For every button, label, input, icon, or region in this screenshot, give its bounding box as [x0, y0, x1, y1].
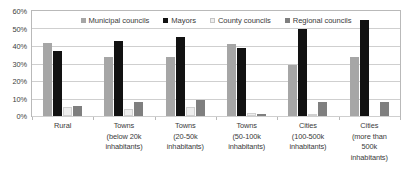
x-axis-label-line: inhabitants) — [94, 142, 153, 153]
bar[interactable] — [237, 48, 246, 116]
bar[interactable] — [114, 41, 123, 116]
x-axis-label-line: Towns — [156, 121, 215, 132]
bar[interactable] — [134, 102, 143, 116]
y-axis-tick-label: 60% — [13, 7, 28, 16]
x-axis-label-line: inhabitants) — [156, 142, 215, 153]
x-axis: RuralTowns(below 20kinhabitants)Towns(20… — [32, 121, 400, 163]
x-axis-label-line: inhabitants) — [278, 142, 337, 153]
x-axis-tick-label: Cities(more than500kinhabitants) — [339, 121, 400, 163]
legend-item[interactable]: Regional councils — [285, 16, 352, 25]
x-axis-label-line: Towns — [217, 121, 276, 132]
bar[interactable] — [318, 102, 327, 116]
legend-item[interactable]: Municipal councils — [81, 16, 150, 25]
x-axis-label-line: Cities — [278, 121, 337, 132]
legend-item[interactable]: County councils — [210, 16, 271, 25]
y-axis: 60%50%40%30%20%10%0% — [0, 10, 31, 117]
bar[interactable] — [227, 44, 236, 116]
x-axis-label-line: inhabitants) — [340, 153, 399, 164]
bar[interactable] — [186, 107, 195, 116]
x-axis-tick — [216, 117, 217, 120]
bar-chart: 60%50%40%30%20%10%0% Municipal councilsM… — [0, 0, 406, 171]
legend-label: Mayors — [171, 16, 196, 25]
bar[interactable] — [104, 57, 113, 117]
bar[interactable] — [350, 57, 359, 117]
y-axis-tick-label: 20% — [13, 77, 28, 86]
x-axis-tick — [339, 117, 340, 120]
x-axis-label-line: Towns — [94, 121, 153, 132]
x-axis-label-line: 500k — [340, 142, 399, 153]
bar[interactable] — [63, 107, 72, 116]
legend-swatch-icon — [210, 18, 215, 23]
bar[interactable] — [308, 114, 317, 116]
bar[interactable] — [43, 43, 52, 117]
x-axis-label-line: inhabitants) — [217, 142, 276, 153]
legend-swatch-icon — [81, 18, 86, 23]
x-axis-tick — [277, 117, 278, 120]
bar[interactable] — [166, 57, 175, 117]
bar[interactable] — [257, 114, 266, 116]
y-axis-tick-label: 30% — [13, 59, 28, 68]
bar[interactable] — [176, 37, 185, 116]
legend-swatch-icon — [163, 18, 168, 23]
bar[interactable] — [247, 113, 256, 117]
legend-item[interactable]: Mayors — [163, 16, 196, 25]
bar[interactable] — [360, 20, 369, 116]
legend-label: Regional councils — [293, 16, 352, 25]
x-axis-tick — [32, 117, 33, 120]
x-axis-label-line: Rural — [33, 121, 92, 132]
y-axis-tick-label: 40% — [13, 42, 28, 51]
x-axis-tick-label: Towns(20-50kinhabitants) — [155, 121, 216, 163]
x-axis-label-line: (20-50k — [156, 132, 215, 143]
bar[interactable] — [124, 109, 133, 116]
x-axis-tick — [155, 117, 156, 120]
y-axis-tick-label: 10% — [13, 94, 28, 103]
legend-swatch-icon — [285, 18, 290, 23]
x-axis-tick-label: Rural — [32, 121, 93, 163]
bar[interactable] — [298, 29, 307, 117]
bar[interactable] — [73, 106, 82, 117]
x-axis-label-line: (100-500k — [278, 132, 337, 143]
chart-legend: Municipal councilsMayorsCounty councilsR… — [31, 12, 401, 28]
legend-label: Municipal councils — [89, 16, 150, 25]
y-axis-tick-label: 50% — [13, 24, 28, 33]
x-axis-tick — [400, 117, 401, 120]
legend-label: County councils — [218, 16, 271, 25]
y-axis-tick-label: 0% — [17, 112, 27, 121]
x-axis-tick-label: Towns(below 20kinhabitants) — [93, 121, 154, 163]
x-axis-label-line: (more than — [340, 132, 399, 143]
x-axis-label-line: Cities — [340, 121, 399, 132]
bar[interactable] — [196, 100, 205, 116]
x-axis-tick — [93, 117, 94, 120]
bar[interactable] — [53, 51, 62, 116]
x-axis-label-line: (below 20k — [94, 132, 153, 143]
bar[interactable] — [380, 102, 389, 116]
x-axis-label-line: (50-100k — [217, 132, 276, 143]
x-axis-tick-label: Towns(50-100kinhabitants) — [216, 121, 277, 163]
x-axis-tick-label: Cities(100-500kinhabitants) — [277, 121, 338, 163]
bar[interactable] — [288, 65, 297, 116]
